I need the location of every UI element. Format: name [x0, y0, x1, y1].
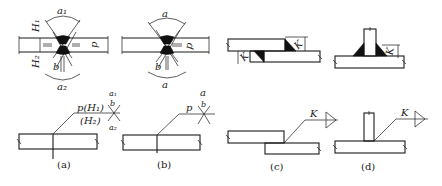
- symbol-d-above: K: [400, 107, 409, 118]
- symbol-a-above: p(H₁): [77, 102, 104, 113]
- panel-a-symbol: p(H₁) (H₂) a₁ b a₂ (a): [17, 89, 120, 170]
- panel-d-symbol: K (d): [333, 107, 428, 172]
- panel-c-section: K K: [226, 37, 322, 64]
- label-gap-b: b: [53, 61, 59, 72]
- label-angle-a1: a₁: [57, 5, 67, 16]
- caption-a: (a): [57, 159, 71, 170]
- panel-c-symbol: K (c): [226, 108, 338, 172]
- label-angle-a2: a₂: [57, 81, 67, 92]
- panel-d-section: K: [333, 27, 406, 68]
- symbol-a-gap: b: [110, 99, 115, 108]
- panel-b-symbol: p a b (b): [121, 87, 215, 170]
- label-b-angle-bottom: a: [162, 79, 168, 90]
- symbol-b-above: p: [186, 102, 193, 113]
- label-depth-h1: H₁: [30, 19, 41, 33]
- symbol-c-above: K: [309, 108, 318, 119]
- symbol-b-angle: a: [200, 87, 206, 98]
- caption-b: (b): [157, 159, 171, 170]
- panel-a-section: a₁ a₂ H₁ H₂ p b: [19, 5, 108, 92]
- label-b-angle-top: a: [162, 8, 168, 19]
- label-d-leg: K: [383, 46, 395, 57]
- panel-b-section: a a p b: [122, 8, 209, 90]
- symbol-b-gap: b: [201, 100, 206, 109]
- symbol-a-angle-bottom: a₂: [109, 123, 117, 132]
- symbol-a-below: (H₂): [80, 115, 101, 126]
- label-depth-h2: H₂: [30, 55, 41, 69]
- label-c-leg-bottom: K: [237, 50, 251, 64]
- caption-d: (d): [361, 161, 375, 172]
- symbol-a-angle-top: a₁: [109, 89, 117, 98]
- label-root-face-p: p: [88, 41, 99, 48]
- label-b-gap: b: [155, 61, 161, 72]
- caption-c: (c): [270, 161, 284, 172]
- weld-symbol-diagram: a₁ a₂ H₁ H₂ p b p(H₁) (H₂) a₁ b a₂ (a): [0, 0, 442, 186]
- label-b-root-face-p: p: [183, 41, 195, 50]
